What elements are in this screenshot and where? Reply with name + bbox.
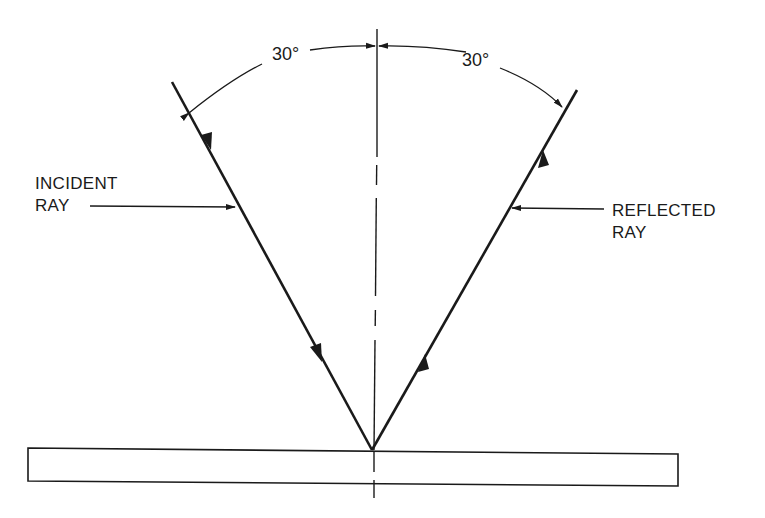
reflected-label-line2: RAY <box>612 222 716 244</box>
normal-line <box>374 29 377 498</box>
diagram-graphics <box>0 0 765 518</box>
angle-label-reflection: 30° <box>462 50 489 71</box>
incident-label-line1: INCIDENT <box>35 173 118 195</box>
reflected-label-line1: REFLECTED <box>612 200 716 222</box>
angle-arc-reflection <box>500 68 562 107</box>
angle-arc-incidence-right <box>310 46 375 50</box>
reflected-ray <box>372 90 577 450</box>
reflected-ray-label: REFLECTED RAY <box>612 200 716 244</box>
mirror-surface <box>28 448 678 486</box>
reflected-leader-arrow <box>512 208 604 209</box>
incident-ray-label: INCIDENT RAY <box>35 173 118 217</box>
reflected-arrowhead-upper <box>538 150 549 168</box>
reflection-diagram: 30° 30° INCIDENT RAY REFLECTED RAY <box>0 0 765 518</box>
angle-arc-incidence <box>189 64 262 113</box>
incident-ray <box>172 82 372 450</box>
angle-arc-reflection-left <box>379 46 466 52</box>
angle-label-incidence: 30° <box>272 44 299 65</box>
reflected-arrowhead-lower <box>418 354 429 372</box>
incident-label-line2: RAY <box>35 195 118 217</box>
incident-arrowhead-lower <box>310 343 322 362</box>
